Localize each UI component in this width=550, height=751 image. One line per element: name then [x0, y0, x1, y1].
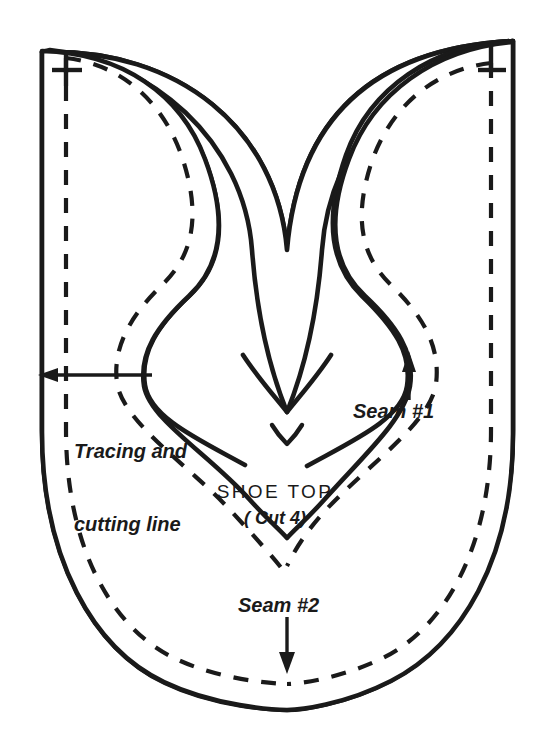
tracing-label-line-1: Tracing and [74, 439, 187, 463]
page-title: SHOE TOP [0, 480, 550, 503]
pattern-diagram-page: Tracing and cutting line Seam #1 Seam #2… [0, 0, 550, 751]
seam-line-center-v [272, 425, 302, 444]
seam-2-label: Seam #2 [238, 593, 319, 617]
pattern-drawing [0, 0, 550, 751]
cut-count-label: ( Cut 4) [0, 508, 550, 530]
seam-1-label: Seam #1 [353, 399, 434, 423]
